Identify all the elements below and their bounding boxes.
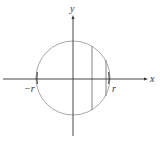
neg-r-label: −r	[24, 83, 35, 94]
x-axis-label: x	[149, 73, 155, 84]
y-axis-arrow-icon	[72, 15, 75, 19]
x-axis-arrow-icon	[144, 78, 148, 81]
y-axis-label: y	[69, 3, 75, 14]
circle-diagram: y x −r r	[0, 0, 160, 141]
pos-r-label: r	[112, 83, 116, 94]
